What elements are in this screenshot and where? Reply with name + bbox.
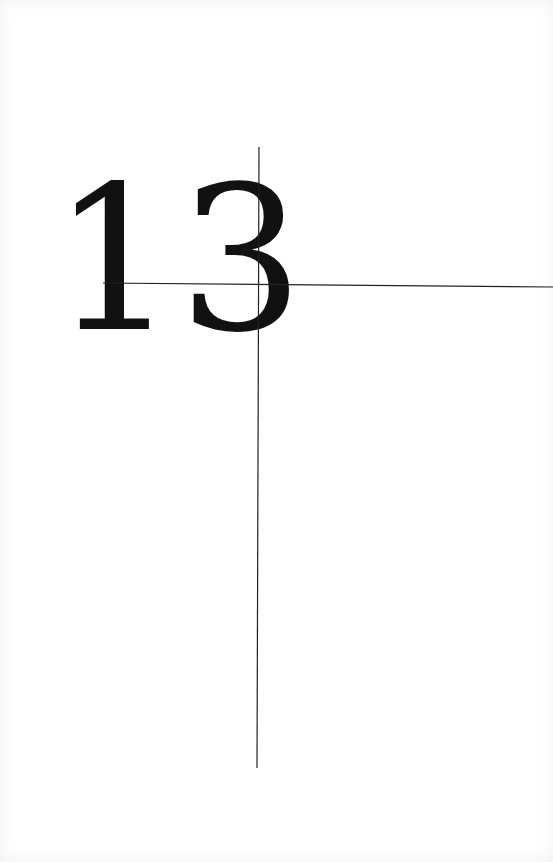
page: 13 [0,0,553,862]
horizontal-rule [103,283,553,287]
crosshair-rules [0,0,553,862]
vertical-rule [257,147,259,768]
